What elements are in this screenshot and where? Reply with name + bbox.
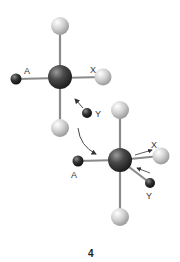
bottom-atom <box>51 119 69 137</box>
central-atom <box>108 148 132 172</box>
incoming-arrow <box>137 168 150 173</box>
reaction-diagram: A X Y A X Y 4 <box>0 0 180 262</box>
top-atom <box>51 17 69 35</box>
a-atom <box>11 74 22 85</box>
figure-number: 4 <box>88 248 94 259</box>
label-y: Y <box>95 109 101 119</box>
label-x: X <box>151 140 157 150</box>
a-atom <box>73 156 84 167</box>
x-atom <box>153 148 170 165</box>
molecule-reactant: A X Y <box>11 17 112 137</box>
reaction-arrow <box>78 128 96 154</box>
label-a: A <box>24 66 30 76</box>
top-atom <box>111 101 129 119</box>
approach-arrow <box>75 99 83 108</box>
y-atom <box>145 178 155 188</box>
label-y: Y <box>146 191 152 201</box>
label-a: A <box>71 170 77 180</box>
central-atom <box>48 65 72 89</box>
label-x: X <box>90 65 96 75</box>
y-atom <box>82 108 92 118</box>
leaving-arrow <box>135 150 152 155</box>
x-atom <box>95 69 112 86</box>
molecule-transition: A X Y <box>71 101 170 226</box>
bottom-atom <box>111 208 129 226</box>
